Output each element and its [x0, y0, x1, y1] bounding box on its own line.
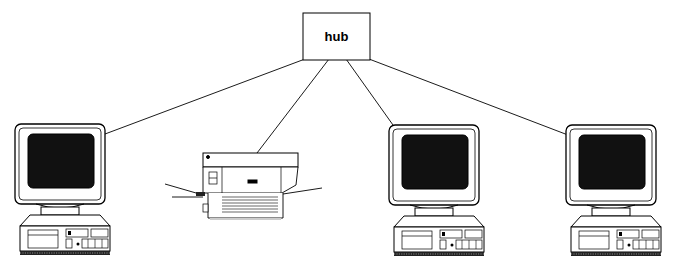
printer-icon: [165, 153, 322, 220]
computer-2-icon: [389, 125, 484, 256]
hub-node: hub: [303, 13, 370, 60]
network-diagram: hub: [0, 0, 673, 262]
connection-hub-computer-1: [105, 59, 305, 134]
connection-hub-computer-3: [369, 59, 568, 135]
computer-3-icon: [566, 125, 661, 256]
hub-label: hub: [325, 29, 349, 44]
connection-hub-computer-2: [346, 59, 393, 125]
connection-lines: [105, 59, 568, 153]
computer-1-icon: [15, 124, 110, 255]
